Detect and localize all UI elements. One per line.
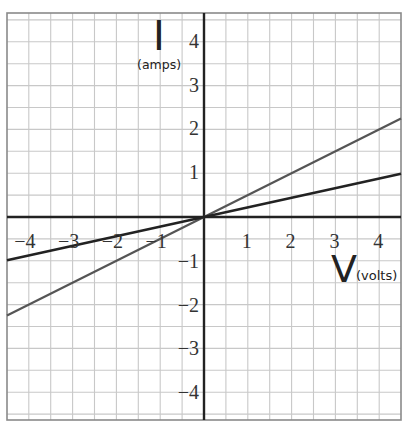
x-tick-label: 2 [286, 230, 296, 252]
x-tick-label: 1 [242, 230, 252, 252]
x-tick-label: −4 [14, 230, 35, 252]
y-tick-label: −2 [178, 294, 199, 316]
y-tick-label: 4 [189, 30, 199, 52]
y-axis-unit: (amps) [137, 57, 181, 72]
y-tick-label: −3 [178, 337, 199, 359]
y-axis-label: I [153, 13, 165, 59]
x-axis-label: V [331, 247, 357, 291]
x-tick-label: −1 [146, 230, 167, 252]
iv-graph: −4−3−2−112344321−1−2−3−4 I (amps) V (vol… [0, 0, 416, 426]
x-tick-label: 4 [373, 230, 383, 252]
y-tick-label: −1 [178, 250, 199, 272]
y-tick-label: 1 [189, 161, 199, 183]
x-axis-unit: (volts) [356, 268, 397, 283]
y-tick-label: 2 [189, 117, 199, 139]
y-tick-label: −4 [178, 381, 199, 403]
x-tick-label: −3 [58, 230, 79, 252]
y-tick-label: 3 [189, 74, 199, 96]
x-tick-label: −2 [102, 230, 123, 252]
